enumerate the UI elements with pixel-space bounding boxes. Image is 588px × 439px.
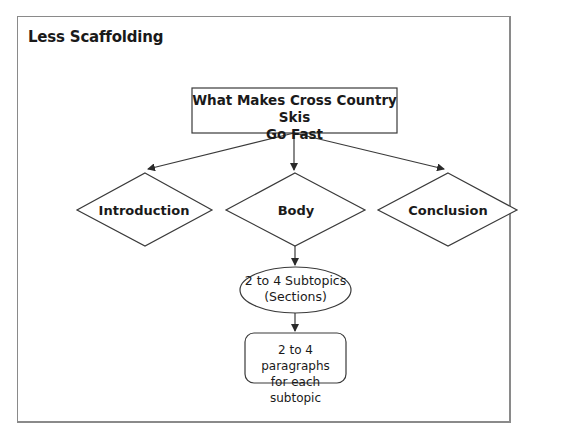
topic-line-2: Go Fast <box>192 126 397 143</box>
paragraphs-line-1: 2 to 4 paragraphs <box>245 342 346 374</box>
topic-label: What Makes Cross Country Skis Go Fast <box>192 92 397 143</box>
subtopics-line-1: 2 to 4 Subtopics <box>240 273 351 289</box>
introduction-label: Introduction <box>75 202 213 219</box>
paragraphs-label: 2 to 4 paragraphs for each subtopic <box>245 342 346 406</box>
subtopics-label: 2 to 4 Subtopics (Sections) <box>240 273 351 305</box>
subtopics-line-2: (Sections) <box>240 289 351 305</box>
topic-line-1: What Makes Cross Country Skis <box>192 92 397 126</box>
body-label: Body <box>227 202 365 219</box>
paragraphs-line-2: for each subtopic <box>245 374 346 406</box>
conclusion-label: Conclusion <box>378 202 518 219</box>
